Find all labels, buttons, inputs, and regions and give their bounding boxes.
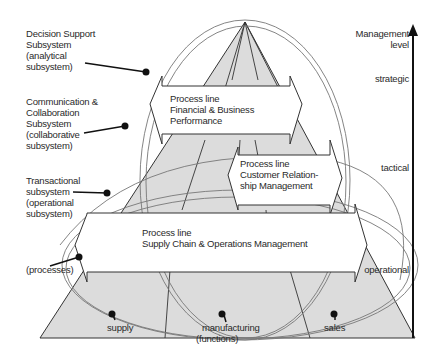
function-supply: supply [107,322,133,333]
label-line: Collaboration [26,107,98,118]
label-line: Process line [142,227,307,238]
processes-label: (processes) [26,264,73,275]
label-line: subsystem) [26,61,95,72]
label-line: Decision Support [26,28,95,39]
pyramid [40,22,415,338]
label-line: (collaborative [26,129,98,140]
label-line: level [356,39,409,50]
label-line: Financial & Business [170,104,254,115]
label-line: Supply Chain & Operations Management [142,238,307,249]
label-line: subsystem) [26,208,80,219]
level-strategic: strategic [375,73,409,84]
process-line-financial-label: Process line Financial & Business Perfor… [170,93,254,126]
process-line-supply-chain-label: Process line Supply Chain & Operations M… [142,227,307,249]
communication-label: Communication & Collaboration Subsystem … [26,96,98,151]
label-line: (analytical [26,50,95,61]
label-line: (operational [26,197,80,208]
label-line: Subsystem [26,118,98,129]
process-line-crm-label: Process line Customer Relation- ship Man… [240,158,318,191]
label-line: Communication & [26,96,98,107]
level-tactical: tactical [381,162,409,173]
label-line: Process line [170,93,254,104]
axis-arrowhead-icon [408,24,418,36]
label-line: Process line [240,158,318,169]
label-line: Subsystem [26,39,95,50]
label-line: Customer Relation- [240,169,318,180]
label-line: subsystem [26,186,80,197]
label-line: subsystem) [26,140,98,151]
transactional-label: Transactional subsystem (operational sub… [26,175,80,219]
level-operational: operational [364,264,409,275]
management-level-title: Management level [356,28,409,50]
function-sales: sales [324,322,345,333]
label-line: ship Management [240,180,318,191]
function-manufacturing: manufacturing [202,322,260,333]
functions-caption: (functions) [196,333,238,344]
label-line: Performance [170,115,254,126]
decision-support-label: Decision Support Subsystem (analytical s… [26,28,95,72]
label-line: Transactional [26,175,80,186]
label-line: Management [356,28,409,39]
